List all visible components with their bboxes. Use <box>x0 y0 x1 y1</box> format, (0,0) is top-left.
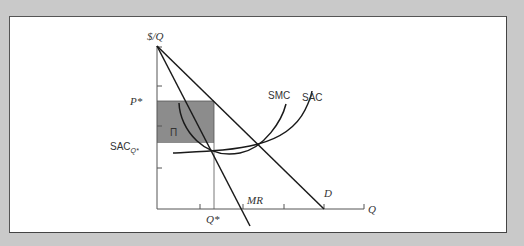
demand-label: D <box>323 187 332 199</box>
price-label: P* <box>129 95 143 107</box>
sac-label: SAC <box>302 92 323 103</box>
sac-q-label: SACQ* <box>110 141 139 155</box>
profit-area <box>157 101 214 143</box>
y-axis-label: $/Q <box>147 30 164 42</box>
x-axis-label: Q <box>368 203 376 215</box>
profit-label: Π <box>170 127 177 138</box>
q-star-label: Q* <box>206 213 220 225</box>
x-ticks <box>200 204 364 209</box>
mr-label: MR <box>246 194 263 206</box>
smc-label: SMC <box>268 90 290 101</box>
monopoly-diagram: $/Q Q P* SACQ* Q* Π SMC SAC MR D <box>0 0 524 246</box>
